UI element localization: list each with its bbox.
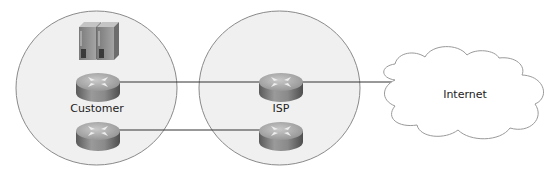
network-diagram [0, 0, 560, 173]
isp-router-secondary-icon [259, 122, 303, 151]
server-icon [97, 22, 119, 60]
customer-label: Customer [62, 102, 132, 115]
isp-label: ISP [256, 102, 306, 115]
customer-router-secondary-icon [76, 122, 120, 151]
customer-router-primary-icon [76, 73, 120, 102]
internet-label: Internet [430, 88, 500, 101]
isp-router-primary-icon [259, 73, 303, 102]
